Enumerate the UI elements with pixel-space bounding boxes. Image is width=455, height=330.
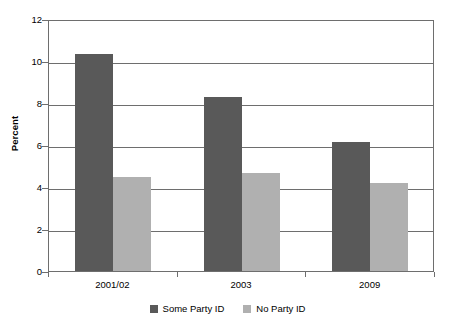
y-tick-label-6: 6 — [14, 140, 42, 151]
bar-2009-some-party-id — [332, 142, 370, 271]
y-tick-label-10: 10 — [14, 56, 42, 67]
bar-2009-no-party-id — [370, 183, 408, 271]
x-tick-label-2009: 2009 — [325, 279, 415, 290]
x-tick-mark-1 — [177, 272, 178, 277]
y-tick-label-8: 8 — [14, 98, 42, 109]
y-tick-label-2: 2 — [14, 224, 42, 235]
bar-2003-no-party-id — [242, 173, 280, 271]
x-tick-label-2001-02: 2001/02 — [67, 279, 157, 290]
chart-legend: Some Party IDNo Party ID — [0, 303, 455, 314]
bar-2001-02-no-party-id — [113, 177, 151, 272]
y-tick-label-4: 4 — [14, 182, 42, 193]
x-tick-mark-3 — [434, 272, 435, 277]
legend-entry-no-party-id: No Party ID — [243, 303, 305, 314]
x-tick-mark-0 — [48, 272, 49, 277]
bar-chart-figure: Percent 121086420 2001/0220032009 Some P… — [0, 0, 455, 330]
legend-label: No Party ID — [256, 303, 305, 314]
dark-gray-swatch-icon — [150, 305, 158, 313]
x-tick-mark-2 — [305, 272, 306, 277]
plot-area — [48, 20, 434, 272]
legend-entry-some-party-id: Some Party ID — [150, 303, 225, 314]
x-tick-label-2003: 2003 — [196, 279, 286, 290]
y-tick-label-12: 12 — [14, 14, 42, 25]
bar-2001-02-some-party-id — [75, 54, 113, 271]
bar-2003-some-party-id — [204, 97, 242, 271]
y-axis-title: Percent — [9, 99, 20, 169]
legend-label: Some Party ID — [163, 303, 225, 314]
y-tick-label-0: 0 — [14, 266, 42, 277]
light-gray-swatch-icon — [243, 305, 251, 313]
